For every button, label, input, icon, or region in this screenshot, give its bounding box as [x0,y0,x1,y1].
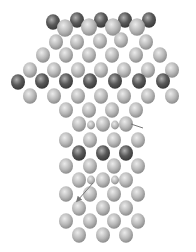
light-atom [129,18,145,36]
dark-atom [156,73,170,88]
dark-atom [11,74,25,89]
light-atom [47,62,61,77]
light-atom [129,102,143,117]
light-atom [131,213,145,228]
atom-layer [11,12,179,242]
crystal-structure-diagram [0,0,196,252]
light-atom [59,186,73,201]
light-atom [96,172,110,187]
light-atom [119,116,133,131]
light-atom [72,200,86,215]
light-atom [117,88,131,103]
light-atom [141,88,155,103]
light-atom [59,213,73,228]
light-atom [83,186,97,201]
light-atom [82,47,96,62]
light-atom [93,33,107,48]
dark-atom [96,145,110,160]
dark-atom [59,73,73,88]
light-atom [119,172,133,187]
light-atom [94,62,108,77]
light-atom [72,116,86,131]
light-atom [71,88,85,103]
light-atom [47,88,61,103]
light-atom [23,62,37,77]
light-atom [114,32,128,47]
light-atom [49,34,63,49]
dark-atom [72,145,86,160]
light-atom [36,47,50,62]
light-atom [111,121,119,130]
light-atom [72,172,86,187]
light-atom [107,158,121,173]
light-atom [59,47,73,62]
light-atom [82,102,96,117]
light-atom [72,227,86,242]
light-atom [119,200,133,215]
light-atom [131,132,145,147]
light-atom [59,158,73,173]
light-atom [129,47,143,62]
light-atom [119,227,133,242]
light-atom [96,200,110,215]
light-atom [96,116,110,131]
light-atom [107,186,121,201]
dark-atom [108,73,122,88]
light-atom [153,47,167,62]
light-atom [81,18,97,36]
light-atom [83,132,97,147]
light-atom [71,62,85,77]
dark-atom [132,73,146,88]
dark-atom [83,73,97,88]
light-atom [131,186,145,201]
light-atom [23,88,37,103]
light-atom [83,158,97,173]
dark-atom [119,145,133,160]
light-atom [59,102,73,117]
light-atom [83,213,97,228]
light-atom [111,176,119,185]
light-atom [131,158,145,173]
line-marker [131,124,143,128]
light-atom [87,121,95,130]
light-atom [107,213,121,228]
light-atom [87,176,95,185]
light-atom [165,88,179,103]
light-atom [94,88,108,103]
dark-atom [35,73,49,88]
light-atom [96,227,110,242]
light-atom [105,47,119,62]
light-atom [70,34,84,49]
light-atom [105,102,119,117]
light-atom [139,34,153,49]
light-atom [107,132,121,147]
light-atom [59,132,73,147]
light-atom [57,19,73,37]
